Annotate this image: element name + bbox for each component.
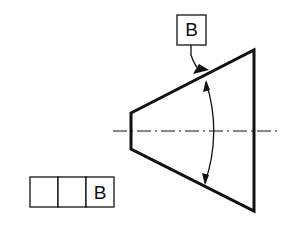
fcf-cell-2 — [58, 177, 86, 207]
arc-arrowhead-bottom — [202, 173, 209, 185]
fcf-cell-1 — [30, 177, 58, 207]
fcf-cell-3-text: B — [86, 183, 114, 202]
angle-arc — [205, 82, 214, 183]
arc-arrowhead-top — [203, 80, 210, 92]
technical-drawing — [0, 0, 286, 227]
datum-letter: B — [177, 20, 206, 39]
